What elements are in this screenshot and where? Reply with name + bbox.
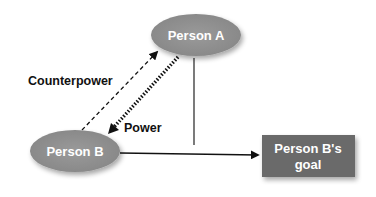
- counterpower-label: Counterpower: [28, 74, 113, 88]
- power-label: Power: [124, 121, 162, 135]
- person-a-label: Person A: [168, 28, 225, 43]
- arrow-b-to-goal: [120, 153, 258, 155]
- goal-label-line2: goal: [295, 157, 322, 172]
- power-arrowhead-icon: [108, 123, 119, 134]
- power-counterpower-diagram: Person A Person B Person B's goal Counte…: [0, 0, 376, 197]
- person-b-label: Person B: [46, 144, 103, 159]
- arrow-power: [114, 57, 178, 127]
- goal-label-line1: Person B's: [274, 141, 341, 156]
